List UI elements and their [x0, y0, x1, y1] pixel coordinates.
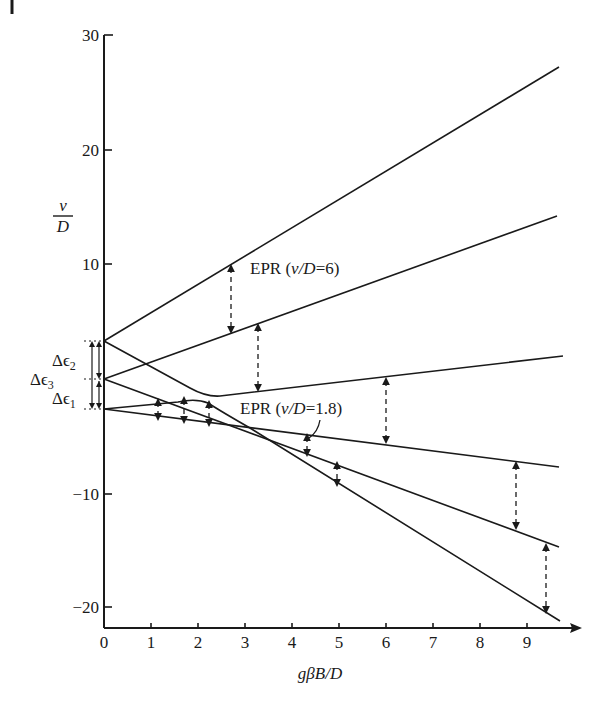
y-tick-30: 30: [82, 26, 99, 45]
y-axis: 30 20 10 −10 −20: [72, 26, 113, 628]
level-6: [104, 400, 560, 621]
energy-level-chart: 30 20 10 −10 −20 ν D 0 1 2 3 4 5 6 7 8 9…: [0, 0, 607, 702]
y-tick-neg20: −20: [72, 598, 99, 617]
y-label-denominator: D: [56, 217, 70, 236]
delta-epsilon-3-label: Δϵ3: [30, 370, 54, 392]
x-tick-6: 6: [382, 633, 391, 652]
x-tick-9: 9: [523, 633, 532, 652]
x-axis-label: gβB/D: [298, 664, 343, 683]
x-tick-5: 5: [335, 633, 344, 652]
x-tick-7: 7: [429, 633, 438, 652]
x-tick-1: 1: [147, 633, 156, 652]
zero-field-gaps: Δϵ2 Δϵ3 Δϵ1: [30, 341, 104, 411]
y-label-numerator: ν: [59, 196, 67, 215]
y-tick-neg10: −10: [72, 485, 99, 504]
x-tick-8: 8: [476, 633, 485, 652]
x-tick-4: 4: [288, 633, 297, 652]
energy-levels: [104, 67, 563, 621]
x-tick-2: 2: [194, 633, 203, 652]
x-tick-3: 3: [241, 633, 250, 652]
level-1: [104, 67, 559, 341]
y-axis-label: ν D: [53, 196, 73, 236]
x-tick-0: 0: [100, 633, 109, 652]
epr-nu6-label: EPR (ν/D=6): [250, 259, 339, 278]
delta-epsilon-1-label: Δϵ1: [52, 389, 76, 411]
x-axis: 0 1 2 3 4 5 6 7 8 9 gβB/D: [100, 623, 582, 683]
level-3: [104, 341, 563, 396]
level-2: [104, 216, 557, 379]
y-tick-20: 20: [82, 141, 99, 160]
epr-transitions-nu-6: [231, 268, 546, 610]
y-tick-10: 10: [82, 255, 99, 274]
epr-nu1-8-label: EPR (ν/D=1.8): [240, 399, 342, 418]
delta-epsilon-2-label: Δϵ2: [52, 351, 76, 373]
